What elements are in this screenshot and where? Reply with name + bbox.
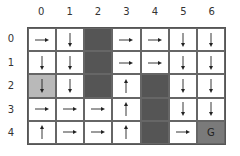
arrow-right-icon	[116, 54, 136, 72]
goal-label: G	[207, 127, 215, 138]
goal-cell: G	[197, 121, 225, 144]
arrow-down-icon	[173, 31, 193, 49]
arrow-down-icon	[201, 54, 221, 72]
wall-cell	[141, 74, 169, 97]
policy-cell	[56, 98, 84, 121]
policy-cell	[28, 98, 56, 121]
row-label: 1	[4, 51, 18, 75]
policy-cell	[112, 121, 140, 144]
arrow-right-icon	[32, 31, 52, 49]
gridworld-policy-grid: G	[27, 27, 226, 145]
arrow-right-icon	[173, 123, 193, 141]
row-label: 3	[4, 98, 18, 122]
policy-cell	[169, 98, 197, 121]
column-label: 4	[141, 6, 169, 17]
policy-cell	[28, 28, 56, 51]
policy-cell	[112, 28, 140, 51]
arrow-up-icon	[116, 77, 136, 95]
arrow-down-icon	[201, 31, 221, 49]
arrow-down-icon	[32, 77, 52, 95]
arrow-up-icon	[116, 100, 136, 118]
row-label: 2	[4, 74, 18, 98]
start-cell	[28, 74, 56, 97]
wall-cell	[141, 121, 169, 144]
policy-cell	[169, 28, 197, 51]
row-label: 0	[4, 27, 18, 51]
arrow-right-icon	[145, 54, 165, 72]
column-label: 6	[198, 6, 226, 17]
arrow-down-icon	[173, 54, 193, 72]
column-label: 0	[27, 6, 55, 17]
row-label: 4	[4, 121, 18, 145]
wall-cell	[141, 98, 169, 121]
arrow-right-icon	[88, 123, 108, 141]
arrow-up-icon	[116, 123, 136, 141]
column-label: 2	[84, 6, 112, 17]
policy-cell	[141, 51, 169, 74]
column-label: 5	[169, 6, 197, 17]
column-label: 3	[112, 6, 140, 17]
arrow-down-icon	[201, 77, 221, 95]
policy-cell	[84, 121, 112, 144]
policy-cell	[112, 98, 140, 121]
arrow-right-icon	[60, 123, 80, 141]
wall-cell	[84, 74, 112, 97]
arrow-down-icon	[60, 54, 80, 72]
arrow-up-icon	[32, 123, 52, 141]
policy-cell	[169, 74, 197, 97]
arrow-down-icon	[173, 100, 193, 118]
policy-cell	[56, 28, 84, 51]
policy-cell	[197, 28, 225, 51]
policy-cell	[56, 74, 84, 97]
policy-cell	[112, 74, 140, 97]
policy-cell	[28, 51, 56, 74]
arrow-down-icon	[60, 77, 80, 95]
policy-cell	[56, 121, 84, 144]
arrow-down-icon	[201, 100, 221, 118]
policy-cell	[169, 51, 197, 74]
policy-cell	[112, 51, 140, 74]
column-label: 1	[55, 6, 83, 17]
policy-cell	[141, 28, 169, 51]
arrow-down-icon	[60, 31, 80, 49]
policy-cell	[169, 121, 197, 144]
arrow-right-icon	[88, 100, 108, 118]
arrow-right-icon	[116, 31, 136, 49]
arrow-right-icon	[32, 100, 52, 118]
wall-cell	[84, 28, 112, 51]
policy-cell	[197, 98, 225, 121]
policy-cell	[197, 51, 225, 74]
arrow-right-icon	[60, 100, 80, 118]
arrow-down-icon	[173, 77, 193, 95]
policy-cell	[56, 51, 84, 74]
policy-cell	[84, 98, 112, 121]
policy-cell	[197, 74, 225, 97]
policy-cell	[28, 121, 56, 144]
arrow-right-icon	[145, 31, 165, 49]
wall-cell	[84, 51, 112, 74]
arrow-down-icon	[32, 54, 52, 72]
